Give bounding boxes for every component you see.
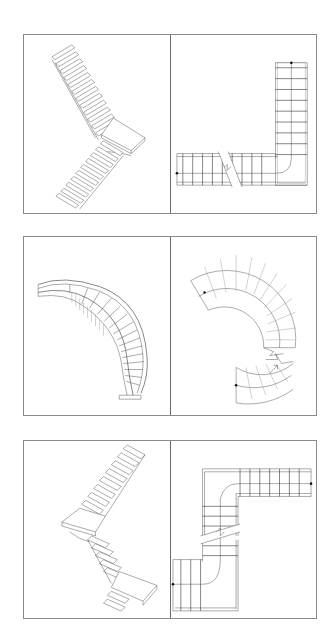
- curved-stair-plan-drawing: [171, 237, 316, 415]
- u-stair-plan-drawing: [171, 441, 316, 618]
- l-stair-plan-drawing: [171, 35, 316, 213]
- plan-view-curved-stair: [171, 237, 316, 415]
- figure-row-1: [23, 34, 317, 214]
- isometric-view-l-stair: [24, 35, 171, 213]
- plan-view-l-stair: [171, 35, 316, 213]
- isometric-view-curved-stair: [24, 237, 171, 415]
- plan-view-u-stair: [171, 441, 316, 618]
- l-stair-isometric-drawing: [24, 35, 170, 213]
- u-stair-isometric-drawing: [24, 441, 170, 618]
- figure-row-3: [23, 440, 317, 619]
- isometric-view-u-stair: [24, 441, 171, 618]
- figure-row-2: [23, 236, 317, 416]
- curved-stair-isometric-drawing: [24, 237, 170, 415]
